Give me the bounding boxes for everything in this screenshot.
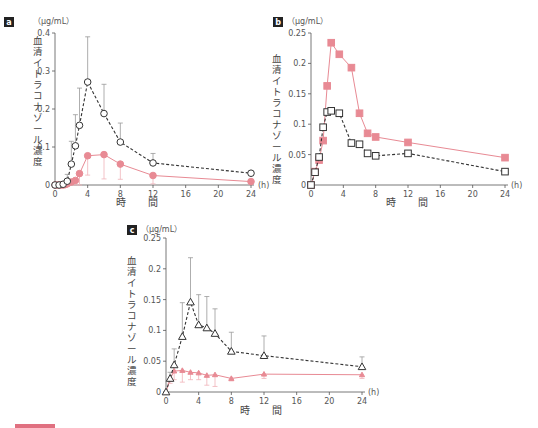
x-tick-label: 0 xyxy=(52,190,57,199)
y-tick-label: 0.1 xyxy=(293,120,306,129)
plot-area xyxy=(162,258,366,395)
x-tick-label: 24 xyxy=(357,397,367,406)
plot-area xyxy=(52,37,255,189)
caption-marker-bar xyxy=(15,424,55,428)
panel-badge-label: a xyxy=(6,18,11,27)
x-tick-label: 0 xyxy=(308,190,313,199)
y-tick-label: 0.15 xyxy=(288,90,306,99)
x-axis-label: 時 間 xyxy=(116,197,164,208)
y-tick-label: 0 xyxy=(45,181,50,190)
y-tick-label: 0.1 xyxy=(148,326,161,335)
y-tick-label: 0.25 xyxy=(143,234,161,243)
y-tick-label: 0.05 xyxy=(143,357,161,366)
x-axis-label: 時 間 xyxy=(240,405,288,416)
y-tick-label: 0.2 xyxy=(293,59,306,68)
y-tick-label: 0.4 xyxy=(37,29,50,38)
x-tick-label: 4 xyxy=(85,190,90,199)
x-tick-label: 20 xyxy=(324,397,334,406)
x-tick-label: 20 xyxy=(213,190,223,199)
y-axis-label: 血清イトラコナゾール濃度 xyxy=(127,255,137,387)
x-tick-label: 16 xyxy=(181,190,191,199)
x-axis-label: 時 間 xyxy=(386,197,434,208)
x-tick-label: 4 xyxy=(341,190,346,199)
y-unit-label: （μg/mL） xyxy=(33,17,74,26)
y-tick-label: 0.05 xyxy=(288,151,306,160)
axes: 0481216202400.050.10.150.20.25 xyxy=(143,234,367,406)
x-tick-label: 8 xyxy=(229,397,234,406)
y-unit-label: （μg/mL） xyxy=(141,225,182,234)
y-tick-label: 0 xyxy=(156,388,161,397)
series-reference xyxy=(52,37,255,189)
x-tick-label: 16 xyxy=(435,190,445,199)
y-tick-label: 0.3 xyxy=(37,67,50,76)
x-tick-label: 20 xyxy=(468,190,478,199)
axes: 0481216202400.050.10.150.20.25 xyxy=(288,29,510,199)
x-unit-label: (h) xyxy=(368,388,379,397)
x-tick-label: 24 xyxy=(246,190,256,199)
x-unit-label: (h) xyxy=(258,181,269,190)
chart-panel-a: a （μg/mL） 血清イトラコナゾール濃度 0481216202400.10.… xyxy=(4,17,269,208)
x-tick-label: 0 xyxy=(163,397,168,406)
y-tick-label: 0 xyxy=(301,181,306,190)
x-unit-label: (h) xyxy=(511,181,522,190)
y-unit-label: （μg/mL） xyxy=(287,17,328,26)
y-tick-label: 0.2 xyxy=(37,105,50,114)
series-reference xyxy=(308,108,509,189)
series-test xyxy=(163,368,364,394)
panel-badge-label: c xyxy=(130,226,135,235)
figure-canvas: a （μg/mL） 血清イトラコナゾール濃度 0481216202400.10.… xyxy=(0,0,538,428)
chart-panel-c: c （μg/mL） 血清イトラコナゾール濃度 0481216202400.050… xyxy=(127,225,379,416)
y-tick-label: 0.2 xyxy=(148,265,161,274)
panel-badge-label: b xyxy=(275,18,281,27)
plot-area xyxy=(308,39,509,188)
x-tick-label: 4 xyxy=(196,397,201,406)
x-tick-label: 24 xyxy=(500,190,510,199)
x-tick-label: 16 xyxy=(292,397,302,406)
chart-panel-b: b （μg/mL） 血清イトラコナゾール濃度 0481216202400.050… xyxy=(272,17,522,208)
y-tick-label: 0.15 xyxy=(143,296,161,305)
y-tick-label: 0.25 xyxy=(288,29,306,38)
y-tick-label: 0.1 xyxy=(37,143,50,152)
y-axis-label: 血清イトラコナゾール濃度 xyxy=(272,53,282,185)
x-tick-label: 8 xyxy=(373,190,378,199)
